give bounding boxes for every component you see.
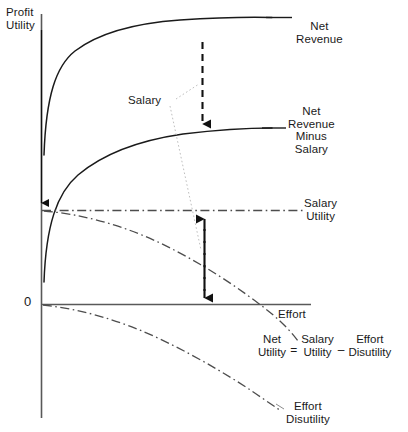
- curve-label-net-revenue: Net Revenue: [296, 20, 343, 45]
- leader-salary-to-lower-arrow: [170, 106, 201, 250]
- curve-net-revenue-minus-salary: [44, 128, 272, 282]
- net-utility-equation: Net Utility = Salary Utility – Effort Di…: [258, 333, 391, 358]
- curve-label-salary-utility: Salary Utility: [304, 197, 337, 222]
- equation-term-net-utility: Net Utility: [258, 333, 286, 358]
- curve-label-effort-disutility: Effort Disutility: [286, 400, 330, 425]
- y-axis-title: Profit Utility: [6, 6, 35, 31]
- equation-equals-sign: =: [289, 343, 298, 357]
- leader-salary-to-upper-arrow: [176, 84, 199, 99]
- x-axis-title: Effort: [278, 308, 306, 321]
- leader-effort-disutility: [276, 404, 284, 409]
- equation-term-salary-utility: Salary Utility: [301, 333, 334, 358]
- equation-term-effort-disutility: Effort Disutility: [348, 333, 391, 358]
- curve-net-revenue: [44, 17, 272, 155]
- curve-effort-disutility: [43, 305, 281, 411]
- net-utility-diagram: Profit Utility 0 Effort Net Revenue Net …: [0, 0, 408, 432]
- diagram-canvas: [0, 0, 408, 432]
- curve-net-utility: [44, 211, 298, 341]
- origin-label: 0: [24, 296, 31, 309]
- equation-minus-sign: –: [337, 343, 346, 357]
- annotation-label-salary: Salary: [128, 94, 161, 107]
- curve-label-net-revenue-minus-salary: Net Revenue Minus Salary: [288, 105, 335, 155]
